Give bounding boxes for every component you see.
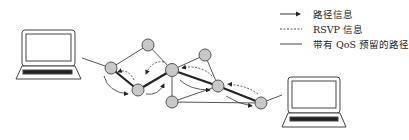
legend-item-rsvp-message: RSVP 信息 [280, 21, 409, 36]
router-node-c [132, 84, 144, 96]
solid-line-icon [280, 39, 304, 49]
router-node-f [199, 49, 211, 61]
sender-laptop-icon [16, 30, 81, 79]
legend-label: 带有 QoS 预留的路径 [313, 37, 409, 51]
router-node-h [255, 97, 267, 109]
dashed-line-icon [280, 24, 304, 34]
router-node-d [166, 64, 179, 77]
receiver-laptop-icon [282, 77, 346, 127]
router-node-b [142, 39, 154, 51]
legend: 路径信息 RSVP 信息 带有 QoS 预留的路径 [280, 6, 409, 51]
router-node-a [105, 62, 117, 74]
router-node-g [212, 80, 224, 92]
legend-item-path-message: 路径信息 [280, 6, 409, 21]
legend-item-qos-path: 带有 QoS 预留的路径 [280, 36, 409, 51]
legend-label: 路径信息 [313, 7, 353, 21]
router-node-e [166, 96, 178, 108]
legend-label: RSVP 信息 [313, 22, 363, 36]
solid-arrow-icon [280, 9, 304, 19]
